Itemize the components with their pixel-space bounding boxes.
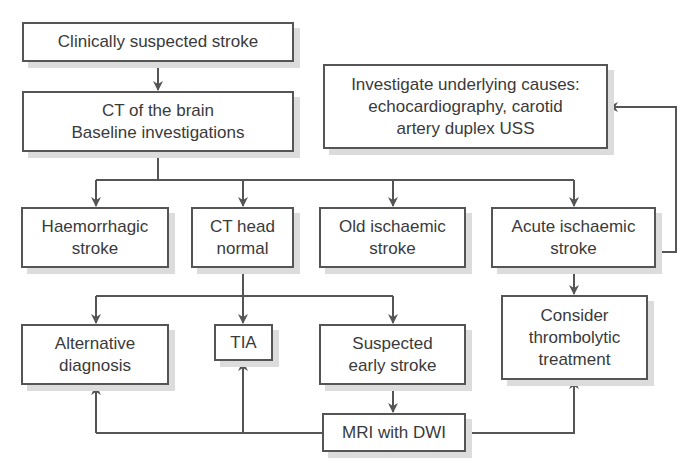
node-label: Alternative diagnosis	[55, 333, 135, 377]
node-label: CT of the brain Baseline investigations	[72, 100, 245, 144]
node-mri-with-dwi: MRI with DWI	[322, 413, 466, 452]
node-old-ischaemic-stroke: Old ischaemic stroke	[319, 207, 466, 268]
node-label: Old ischaemic stroke	[339, 216, 446, 260]
node-label: CT head normal	[210, 216, 275, 260]
node-investigate-causes: Investigate underlying causes: echocardi…	[323, 64, 608, 149]
node-alternative-diagnosis: Alternative diagnosis	[21, 324, 169, 385]
node-tia: TIA	[214, 324, 273, 361]
node-ct-head-normal: CT head normal	[191, 207, 294, 268]
node-ct-brain-baseline: CT of the brain Baseline investigations	[22, 91, 294, 152]
node-label: Haemorrhagic stroke	[42, 216, 149, 260]
node-label: Consider thrombolytic treatment	[529, 305, 621, 371]
node-label: Acute ischaemic stroke	[512, 216, 636, 260]
node-haemorrhagic-stroke: Haemorrhagic stroke	[21, 207, 169, 268]
node-label: Clinically suspected stroke	[58, 31, 258, 53]
node-label: MRI with DWI	[342, 422, 446, 444]
node-label: TIA	[230, 332, 256, 354]
node-suspected-early-stroke: Suspected early stroke	[319, 324, 466, 385]
stroke-flowchart: Clinically suspected stroke CT of the br…	[0, 0, 686, 470]
node-label: Suspected early stroke	[349, 333, 437, 377]
node-label: Investigate underlying causes: echocardi…	[351, 74, 580, 140]
node-acute-ischaemic-stroke: Acute ischaemic stroke	[491, 207, 656, 268]
node-clinically-suspected-stroke: Clinically suspected stroke	[22, 22, 294, 62]
node-consider-thrombolytic: Consider thrombolytic treatment	[501, 295, 648, 380]
